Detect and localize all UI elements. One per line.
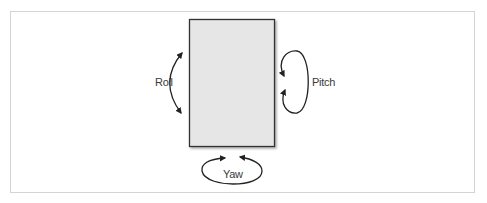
diagram-canvas <box>0 0 487 203</box>
pitch-arrow-icon <box>281 51 308 113</box>
roll-label: Roll <box>155 76 173 88</box>
yaw-label: Yaw <box>223 168 243 180</box>
device-body <box>190 20 275 147</box>
pitch-label: Pitch <box>312 76 335 88</box>
